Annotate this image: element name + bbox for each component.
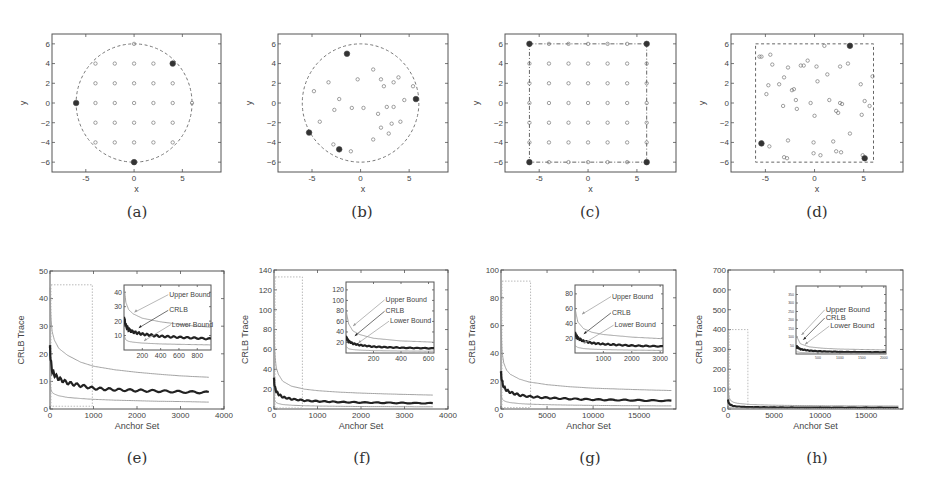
y-tick-label: 6 (725, 40, 730, 49)
sensor-marker (815, 65, 818, 68)
y-tick-label: 100 (332, 297, 344, 304)
sensor-marker (390, 122, 393, 125)
y-axis-label: y (244, 100, 254, 105)
y-tick-label: −4 (720, 138, 730, 147)
y-tick-label: 20 (39, 350, 48, 359)
sensor-marker (132, 141, 135, 144)
y-tick-label: 120 (332, 286, 344, 293)
x-tick-label: 5000 (765, 411, 783, 420)
sensor-marker (382, 85, 385, 88)
y-tick-label: 60 (490, 321, 499, 330)
y-tick-label: 40 (490, 349, 499, 358)
annotation-lower-bound: Lower Bound (830, 321, 874, 330)
y-axis-label: y (697, 100, 707, 105)
sensor-marker (547, 82, 550, 85)
x-axis-label: x (134, 184, 139, 194)
caption-g: (g) (579, 449, 600, 467)
y-tick-label: 0 (44, 405, 49, 414)
annotation-crlb: CRLB (169, 306, 188, 313)
sensor-marker (333, 108, 336, 111)
y-tick-label: 40 (39, 294, 48, 303)
sensor-marker (832, 140, 835, 143)
sensor-marker (356, 78, 359, 81)
sensor-marker (113, 141, 116, 144)
annotation-lower-bound: Lower Bound (615, 321, 656, 328)
sensor-marker (318, 120, 321, 123)
x-axis-label: Anchor Set (793, 421, 838, 431)
anchor-marker (306, 130, 312, 136)
y-axis-label: CRLB Trace (240, 315, 250, 364)
anchor-marker (527, 159, 533, 165)
y-tick-label: 40 (336, 328, 344, 335)
sensor-marker (171, 121, 174, 124)
sensor-marker (94, 121, 97, 124)
plots-canvas: -505−6−4−20246xy-505−6−4−20246xy-505−6−4… (0, 0, 935, 495)
anchor-marker (644, 41, 650, 47)
sensor-marker (567, 101, 570, 104)
x-tick-label: 3000 (172, 411, 190, 420)
subplot-a: -505−6−4−20246xy (18, 34, 221, 194)
sensor-marker (547, 121, 550, 124)
sensor-marker (567, 62, 570, 65)
y-axis-label: CRLB Trace (467, 315, 477, 364)
x-tick-label: 0 (272, 411, 277, 420)
annotation-lower-bound: Lower Bound (390, 317, 431, 324)
sensor-marker (547, 62, 550, 65)
sensor-marker (777, 83, 780, 86)
sensor-marker (834, 109, 837, 112)
x-axis-label: x (815, 184, 820, 194)
x-tick-label: 3000 (652, 355, 668, 362)
anchor-marker (847, 43, 853, 49)
annotation-crlb: CRLB (386, 307, 405, 314)
x-tick-label: 0 (499, 411, 504, 420)
zoom-region (275, 277, 302, 408)
y-tick-label: 100 (713, 385, 727, 394)
subplot-e: 0100020003000400001020304050Anchor SetCR… (16, 267, 233, 431)
sensor-marker (586, 62, 589, 65)
annotation-lower-bound: Lower Bound (172, 321, 213, 328)
y-tick-label: −2 (494, 119, 504, 128)
sensor-marker (132, 121, 135, 124)
y-tick-label: 50 (39, 267, 48, 276)
zoom-region (729, 330, 748, 409)
series-crlb (501, 371, 671, 401)
anchor-marker (759, 141, 765, 147)
sensor-marker (547, 141, 550, 144)
sensor-marker (606, 101, 609, 104)
sensor-marker (823, 44, 826, 47)
sensor-marker (349, 150, 352, 153)
x-tick-label: 2000 (352, 411, 370, 420)
anchor-marker (344, 51, 350, 57)
y-tick-label: 30 (114, 303, 122, 310)
sensor-marker (839, 151, 842, 154)
x-tick-label: 0 (726, 411, 731, 420)
anchor-marker (527, 41, 533, 47)
y-tick-label: −4 (494, 138, 504, 147)
sensor-marker (625, 101, 628, 104)
sensor-marker (152, 121, 155, 124)
anchor-marker (131, 159, 137, 165)
x-tick-label: 200 (368, 355, 380, 362)
x-tick-label: -5 (82, 174, 90, 183)
y-tick-label: −4 (267, 138, 277, 147)
y-tick-label: 0 (46, 99, 51, 108)
sensor-marker (586, 121, 589, 124)
y-tick-label: 40 (114, 289, 122, 296)
y-tick-label: 100 (788, 335, 794, 339)
sensor-marker (863, 99, 866, 102)
sensor-marker (816, 80, 819, 83)
sensor-marker (645, 121, 648, 124)
y-tick-label: 60 (263, 345, 272, 354)
y-tick-label: 0 (499, 99, 504, 108)
sensor-marker (372, 138, 375, 141)
y-tick-label: −6 (494, 158, 504, 167)
y-tick-label: 100 (486, 266, 500, 275)
sensor-marker (781, 104, 784, 107)
y-tick-label: 60 (565, 305, 573, 312)
x-tick-label: 400 (155, 352, 167, 359)
inset-e: 20040060080010203040Upper BoundCRLBLower… (114, 285, 213, 359)
x-tick-label: 15000 (628, 411, 651, 420)
sensor-marker (403, 98, 406, 101)
y-tick-label: 150 (788, 327, 794, 331)
y-tick-label: −4 (41, 138, 51, 147)
